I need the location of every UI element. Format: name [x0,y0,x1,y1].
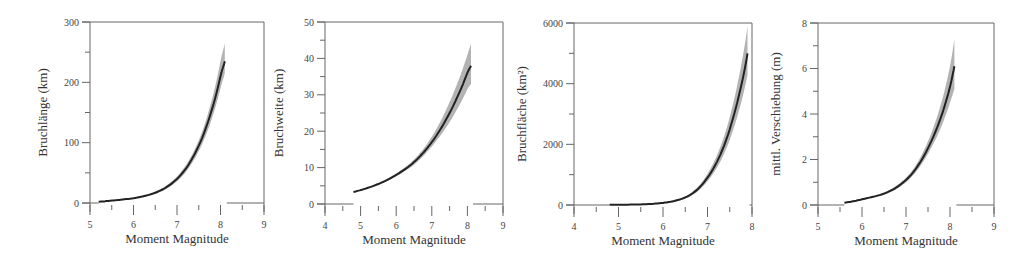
y-tick-label: 0 [802,200,807,211]
x-tick-label: 8 [948,221,953,232]
y-tick-label: 6 [802,63,807,74]
y-tick-label: 2 [802,154,807,165]
y-tick-label: 4 [802,109,807,120]
y-tick-label: 8 [802,18,807,29]
chart-svg: 0246856789Moment Magnitudemittl. Verschi… [0,0,1033,261]
x-tick-label: 9 [992,221,997,232]
axes [810,23,994,217]
x-tick-label: 7 [904,221,909,232]
x-tick-label: 5 [816,221,821,232]
x-tick-label: 6 [860,221,865,232]
median-line [844,66,954,203]
y-axis-label: mittl. Verschiebung (m) [768,52,783,176]
uncertainty-band [844,39,954,203]
x-axis-label: Moment Magnitude [854,233,958,248]
